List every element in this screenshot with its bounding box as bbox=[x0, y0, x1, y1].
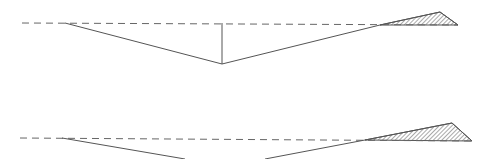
hatched-overhang bbox=[380, 12, 458, 25]
top-diagram bbox=[22, 12, 458, 64]
influence-profile-left bbox=[62, 138, 185, 159]
hatched-overhang bbox=[365, 123, 472, 141]
influence-profile bbox=[65, 12, 458, 64]
bottom-diagram bbox=[20, 123, 472, 159]
diagram-canvas bbox=[0, 0, 497, 159]
